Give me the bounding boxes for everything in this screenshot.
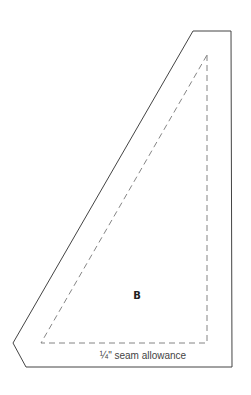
pattern-template: B ¼" seam allowance [0, 0, 251, 395]
piece-label: B [133, 290, 141, 301]
sewing-line [41, 55, 207, 343]
cutting-line [13, 31, 232, 367]
seam-allowance-label: ¼" seam allowance [100, 350, 187, 361]
